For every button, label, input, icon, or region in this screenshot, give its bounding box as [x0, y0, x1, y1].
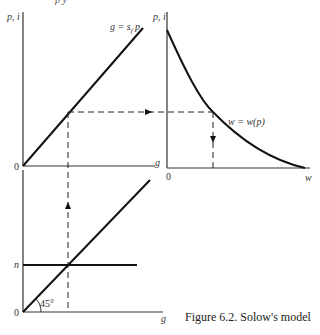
lower-origin: 0 — [14, 308, 19, 318]
upper-right-axes — [167, 12, 310, 168]
lower-n-label: n — [14, 260, 19, 270]
upper-left-x-label: g — [155, 158, 160, 168]
upper-left-origin: 0 — [14, 162, 19, 172]
upper-right-y-label: p, i — [153, 12, 166, 22]
savings-line — [23, 28, 143, 166]
savings-line-label: g = sf p — [110, 22, 140, 35]
upper-right-x-label: w — [305, 173, 312, 183]
diagram-canvas — [0, 0, 320, 335]
forty-five-degree-line — [23, 180, 150, 312]
upper-right-origin: 0 — [166, 172, 171, 182]
solow-model-figure: p y p, i g = sf p g 0 p, i w = w(p) w 0 … — [0, 0, 320, 335]
wage-curve-label: w = w(p) — [228, 117, 265, 127]
right-arrow-icon — [145, 109, 152, 115]
top-cut-text: p y — [55, 0, 67, 5]
upper-left-y-label: p, i — [7, 12, 20, 22]
down-arrow-icon — [210, 136, 216, 143]
figure-caption: Figure 6.2. Solow's model — [185, 310, 311, 325]
lower-x-label: g — [161, 314, 166, 324]
angle-label: 45° — [40, 299, 54, 309]
up-arrow-icon — [65, 202, 71, 209]
wage-curve — [167, 30, 305, 168]
